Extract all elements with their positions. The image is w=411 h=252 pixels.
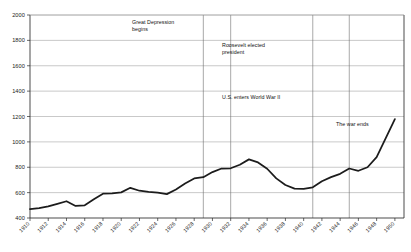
y-tick-label: 2000	[12, 12, 25, 18]
annotation-roosevelt-elected: Roosevelt elected	[222, 42, 265, 48]
x-tick-label: 1934	[237, 220, 250, 233]
x-tick-label: 1946	[346, 220, 359, 233]
y-tick-label: 800	[15, 164, 25, 170]
annotations: Great DepressionbeginsRoosevelt electedp…	[132, 19, 369, 127]
chart-container: 400600800100012001400160018002000 191019…	[0, 0, 411, 252]
x-tick-label: 1938	[273, 220, 286, 233]
x-tick-label: 1920	[109, 220, 122, 233]
x-tick-label: 1932	[218, 220, 231, 233]
x-tick-label: 1942	[310, 220, 323, 233]
x-tick-label: 1926	[164, 220, 177, 233]
data-series-line	[30, 119, 395, 209]
annotation-war-ends: The war ends	[336, 121, 369, 127]
x-tick-label: 1930	[200, 220, 213, 233]
x-tick-label: 1936	[255, 220, 268, 233]
x-tick-label: 1914	[54, 220, 67, 233]
grid-lines	[30, 15, 404, 193]
x-tick-label: 1924	[145, 220, 158, 233]
line-chart: 400600800100012001400160018002000 191019…	[0, 0, 411, 252]
annotation-great-depression-line2: begins	[132, 26, 148, 32]
annotation-roosevelt-elected-line2: president	[222, 49, 245, 55]
y-tick-label: 1000	[12, 139, 25, 145]
x-tick-label: 1928	[182, 220, 195, 233]
x-tick-label: 1922	[127, 220, 140, 233]
annotation-great-depression: Great Depression	[132, 19, 174, 25]
y-tick-label: 1400	[12, 88, 25, 94]
x-tick-label: 1948	[364, 220, 377, 233]
y-tick-label: 400	[15, 215, 25, 221]
x-tick-label: 1918	[91, 220, 104, 233]
x-tick-label: 1950	[383, 220, 396, 233]
x-axis-tick-labels: 1910191219141916191819201922192419261928…	[18, 218, 396, 233]
x-tick-label: 1940	[291, 220, 304, 233]
y-axis-tick-labels: 400600800100012001400160018002000	[12, 12, 30, 221]
y-tick-label: 1600	[12, 63, 25, 69]
x-tick-label: 1916	[72, 220, 85, 233]
y-tick-label: 1200	[12, 114, 25, 120]
x-tick-label: 1910	[18, 220, 31, 233]
x-tick-label: 1944	[328, 220, 341, 233]
series-line-index	[30, 119, 395, 209]
x-tick-label: 1912	[36, 220, 49, 233]
annotation-us-enters-wwii: U.S. enters World War II	[222, 94, 280, 100]
y-tick-label: 1800	[12, 37, 25, 43]
y-tick-label: 600	[15, 190, 25, 196]
